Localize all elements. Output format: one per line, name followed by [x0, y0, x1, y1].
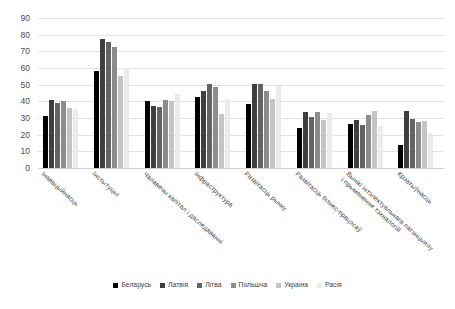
- legend-label: Латвія: [168, 282, 188, 289]
- legend-swatch-icon: [197, 283, 202, 288]
- bar: [201, 91, 206, 168]
- legend-swatch-icon: [160, 283, 165, 288]
- bar: [43, 116, 48, 168]
- bar: [106, 42, 111, 168]
- gridline: [38, 168, 444, 169]
- bar: [372, 111, 377, 168]
- legend-swatch-icon: [276, 283, 281, 288]
- bar: [309, 117, 314, 168]
- x-axis-label: Інфраструктура: [192, 170, 234, 209]
- bar: [327, 113, 332, 168]
- bar-group: [190, 18, 241, 168]
- bar: [73, 109, 78, 168]
- bar: [315, 112, 320, 168]
- bar: [157, 107, 162, 169]
- bar: [378, 126, 383, 168]
- bar: [422, 121, 427, 169]
- bar: [366, 115, 371, 168]
- legend-label: Польшча: [239, 282, 268, 289]
- bar: [348, 124, 353, 169]
- bar: [303, 112, 308, 168]
- legend-swatch-icon: [231, 283, 236, 288]
- bar: [404, 111, 409, 169]
- x-axis-label: Развітасць рынку: [243, 170, 289, 213]
- y-axis-tick-label: 90: [21, 14, 30, 23]
- bar: [151, 106, 156, 168]
- bar: [428, 133, 433, 168]
- bar: [145, 101, 150, 168]
- bar: [49, 100, 54, 168]
- bar: [410, 119, 415, 168]
- legend-label: Расія: [325, 282, 342, 289]
- bar-group: [89, 18, 140, 168]
- bar: [55, 103, 60, 168]
- bar: [270, 99, 275, 168]
- bar: [252, 84, 257, 168]
- y-axis-tick-label: 70: [21, 47, 30, 56]
- bar: [246, 104, 251, 168]
- bar: [169, 101, 174, 168]
- legend-item[interactable]: Беларусь: [113, 282, 151, 289]
- bar-groups: [38, 18, 444, 168]
- bar-group: [241, 18, 292, 168]
- y-axis-tick-label: 80: [21, 30, 30, 39]
- bar: [321, 120, 326, 168]
- legend-item[interactable]: Украіна: [276, 282, 308, 289]
- x-axis-label: Вынікі інтэлектуальнага патэнцыялуі прым…: [339, 170, 435, 259]
- bar: [195, 97, 200, 168]
- bar: [264, 91, 269, 168]
- y-axis-tick-label: 0: [25, 164, 30, 173]
- bar: [219, 114, 224, 168]
- legend-label: Украіна: [284, 282, 308, 289]
- legend-item[interactable]: Латвія: [160, 282, 188, 289]
- bar: [112, 47, 117, 169]
- legend-item[interactable]: Літва: [197, 282, 221, 289]
- legend-item[interactable]: Польшча: [231, 282, 268, 289]
- x-axis-label: Інстытуцыі: [91, 170, 122, 199]
- y-axis: 9080706050403020100: [0, 18, 34, 168]
- bar: [213, 87, 218, 168]
- bar-group: [292, 18, 343, 168]
- bar: [163, 100, 168, 169]
- plot-area: [38, 18, 444, 168]
- legend-swatch-icon: [113, 283, 118, 288]
- bar: [61, 101, 66, 168]
- bar-chart: 9080706050403020100 ІнавацыйнасцьІнстыту…: [0, 0, 455, 309]
- y-axis-tick-label: 20: [21, 130, 30, 139]
- y-axis-tick-label: 10: [21, 147, 30, 156]
- bar: [297, 128, 302, 168]
- bar: [118, 76, 123, 168]
- bar-group: [38, 18, 89, 168]
- legend-swatch-icon: [317, 283, 322, 288]
- x-axis-label: Крэатыўнасць: [395, 170, 434, 206]
- bar: [207, 84, 212, 168]
- bar: [124, 68, 129, 169]
- legend-item[interactable]: Расія: [317, 282, 342, 289]
- x-axis-label: Чалавечы капітал і даследаванні: [141, 170, 224, 246]
- bar: [175, 94, 180, 169]
- bar-group: [393, 18, 444, 168]
- legend-label: Літва: [205, 282, 221, 289]
- bar: [354, 120, 359, 168]
- bar: [94, 71, 99, 168]
- bar: [360, 125, 365, 168]
- chart-legend: БеларусьЛатвіяЛітваПольшчаУкраінаРасія: [0, 282, 455, 289]
- bar: [276, 86, 281, 169]
- y-axis-tick-label: 50: [21, 80, 30, 89]
- x-axis-category-labels: ІнавацыйнасцьІнстытуцыіЧалавечы капітал …: [38, 170, 444, 280]
- bar-group: [140, 18, 191, 168]
- y-axis-tick-label: 40: [21, 97, 30, 106]
- bar-group: [343, 18, 394, 168]
- bar: [100, 39, 105, 168]
- legend-label: Беларусь: [121, 282, 151, 289]
- bar: [67, 108, 72, 168]
- bar: [225, 99, 230, 168]
- x-axis-label: Інавацыйнасць: [40, 170, 81, 208]
- y-axis-tick-label: 30: [21, 114, 30, 123]
- y-axis-tick-label: 60: [21, 64, 30, 73]
- bar: [398, 145, 403, 168]
- bar: [258, 84, 263, 168]
- bar: [416, 122, 421, 168]
